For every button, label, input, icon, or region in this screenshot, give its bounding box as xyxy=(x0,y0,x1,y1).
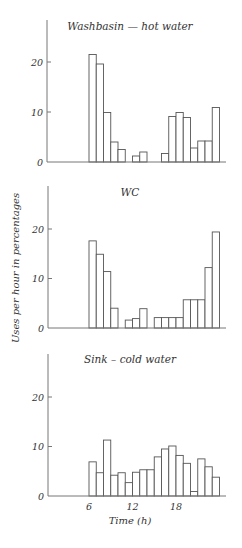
bar-hour-6 xyxy=(89,55,96,163)
x-tick-label: 6 xyxy=(86,501,92,512)
bar-hour-20 xyxy=(191,492,198,496)
bar-hour-11 xyxy=(125,320,132,328)
bar-hour-12 xyxy=(133,472,140,496)
bar-hour-21 xyxy=(198,459,205,496)
water-usage-figure: Washbasin — hot water 01020 WC 01020 Sin… xyxy=(0,0,242,548)
y-axis-label: Uses per hour in percentages xyxy=(10,193,21,343)
x-axis-label: Time (h) xyxy=(109,515,152,526)
bar-hour-16 xyxy=(162,449,169,496)
bar-series xyxy=(89,55,220,163)
bar-hour-15 xyxy=(154,318,161,328)
bar-series xyxy=(89,232,220,328)
y-tick-label: 10 xyxy=(31,107,43,118)
y-tick-label: 0 xyxy=(37,157,43,168)
x-ticks: 61218 xyxy=(86,501,182,512)
bar-hour-7 xyxy=(96,64,103,162)
bar-hour-6 xyxy=(89,462,96,496)
y-tick-label: 10 xyxy=(32,273,44,284)
bar-hour-12 xyxy=(133,319,140,328)
bar-hour-8 xyxy=(104,272,111,328)
bar-hour-20 xyxy=(191,148,198,162)
bar-hour-9 xyxy=(111,308,118,328)
bar-hour-18 xyxy=(176,318,183,328)
bar-hour-13 xyxy=(140,152,147,162)
bar-hour-23 xyxy=(212,108,219,163)
bar-hour-12 xyxy=(133,156,140,162)
bar-hour-7 xyxy=(96,473,103,496)
y-tick-label: 10 xyxy=(32,441,44,452)
y-tick-label: 0 xyxy=(38,491,44,502)
bar-hour-13 xyxy=(140,470,147,496)
chart-washbasin-hot-water: Washbasin — hot water 01020 xyxy=(30,20,226,168)
bar-hour-18 xyxy=(176,455,183,496)
bar-hour-6 xyxy=(89,241,96,328)
bar-hour-9 xyxy=(111,142,118,162)
figure-canvas: Washbasin — hot water 01020 WC 01020 Sin… xyxy=(0,0,242,548)
bar-hour-21 xyxy=(198,141,205,162)
bar-hour-15 xyxy=(154,457,161,496)
y-tick-label: 20 xyxy=(30,57,43,68)
bar-hour-16 xyxy=(162,318,169,328)
bar-hour-18 xyxy=(176,113,183,163)
bar-hour-19 xyxy=(183,118,190,163)
x-tick-label: 18 xyxy=(170,501,182,512)
chart-title: Sink – cold water xyxy=(84,353,177,365)
bar-hour-21 xyxy=(198,300,205,328)
bar-hour-22 xyxy=(205,268,212,328)
chart-sink-cold-water: Sink – cold water 01020 61218 xyxy=(31,353,226,512)
bar-hour-17 xyxy=(169,318,176,328)
bar-hour-22 xyxy=(205,467,212,496)
bar-hour-9 xyxy=(111,475,118,496)
y-ticks: 01020 xyxy=(31,392,52,502)
bar-hour-17 xyxy=(169,117,176,163)
y-tick-label: 20 xyxy=(31,392,44,403)
bar-hour-14 xyxy=(147,470,154,496)
x-tick-label: 12 xyxy=(126,501,138,512)
bar-hour-13 xyxy=(140,309,147,328)
y-ticks: 01020 xyxy=(30,57,51,168)
bar-series xyxy=(89,440,220,496)
bar-hour-11 xyxy=(125,483,132,496)
bar-hour-22 xyxy=(205,141,212,162)
bar-hour-8 xyxy=(104,440,111,496)
bar-hour-23 xyxy=(212,232,219,328)
chart-title: WC xyxy=(121,186,140,198)
bar-hour-20 xyxy=(191,300,198,328)
bar-hour-19 xyxy=(183,463,190,496)
bar-hour-17 xyxy=(169,446,176,496)
y-tick-label: 0 xyxy=(38,323,44,334)
bar-hour-19 xyxy=(183,300,190,328)
chart-wc: WC 01020 xyxy=(31,186,226,334)
y-ticks: 01020 xyxy=(31,224,52,334)
bar-hour-8 xyxy=(104,113,111,163)
y-tick-label: 20 xyxy=(31,224,44,235)
bar-hour-16 xyxy=(162,154,169,163)
bar-hour-10 xyxy=(118,150,125,163)
chart-title: Washbasin — hot water xyxy=(67,20,193,32)
bar-hour-23 xyxy=(212,477,219,496)
bar-hour-7 xyxy=(96,254,103,328)
bar-hour-10 xyxy=(118,473,125,496)
